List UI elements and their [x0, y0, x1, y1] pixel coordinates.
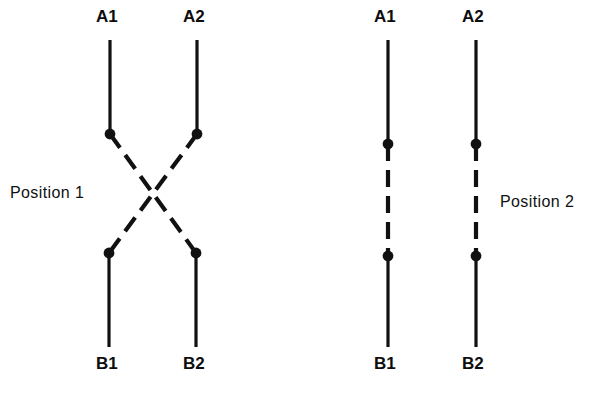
terminal-label-position-1-a2: A2	[183, 8, 205, 25]
terminal-label-position-2-a1: A1	[374, 8, 396, 25]
figure-root: A1A2B1B2Position 1A1A2B1B2Position 2	[0, 0, 591, 400]
terminal-label-position-1-b1: B1	[96, 355, 118, 372]
terminal-label-position-1-a1: A1	[96, 8, 118, 25]
position-1-node-a2-dot	[192, 129, 203, 140]
terminal-label-position-2-b1: B1	[374, 355, 396, 372]
position-1-node-a1-dot	[105, 129, 116, 140]
position-2-node-a1-dot	[383, 139, 394, 150]
position-2-node-b2-dot	[471, 251, 482, 262]
position-1-node-b1-dot	[104, 248, 115, 259]
position-1-node-b2-dot	[191, 248, 202, 259]
caption-position-2: Position 2	[500, 194, 574, 210]
terminal-label-position-1-b2: B2	[183, 355, 205, 372]
position-2-node-b1-dot	[383, 251, 394, 262]
position-2-node-a2-dot	[471, 139, 482, 150]
terminal-label-position-2-b2: B2	[462, 355, 484, 372]
caption-position-1: Position 1	[10, 185, 84, 201]
terminal-label-position-2-a2: A2	[462, 8, 484, 25]
